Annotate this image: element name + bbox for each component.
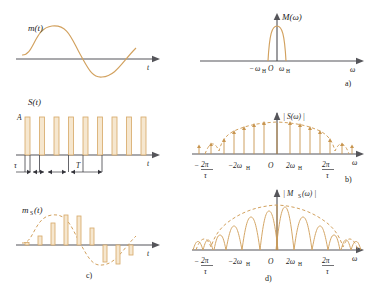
gap-dim-arrow-left (33, 170, 37, 174)
time-axis-arrow-b (152, 152, 160, 159)
replica-lobe (242, 217, 260, 250)
replica-lobe-center (276, 207, 294, 250)
time-axis-arrow-c (152, 242, 160, 249)
replica-lobe (328, 235, 340, 250)
pulse (141, 117, 146, 155)
pulse (83, 117, 88, 155)
sample-pulse-neg (103, 245, 107, 262)
panel-label-a: a) (345, 79, 352, 88)
pulse (25, 117, 30, 155)
tick-origin-d: O (268, 257, 274, 266)
label-period-T: T (76, 161, 81, 170)
t-dim-arrow-a (48, 170, 52, 174)
tick-minus-2pi-over-tau-d: − 2π τ (194, 256, 213, 276)
panel-c-time: m S (t) t c) (16, 205, 160, 280)
tick-minus-2pi-over-tau-b: − 2π τ (194, 160, 213, 180)
time-axis-arrow-a (152, 56, 160, 63)
svg-text:−2ω: −2ω (228, 161, 242, 170)
svg-text:H: H (298, 165, 302, 171)
figure-container: m(t) t M(ω) − ω H O ω H ω a) S(t) A (0, 0, 385, 293)
panel-d-freq: | M S (ω) | − 2π (192, 189, 364, 283)
sample-pulses (25, 215, 133, 264)
svg-text:τ: τ (204, 267, 207, 276)
axis-label-omega-a: ω (350, 65, 355, 74)
svg-text:| M: | M (283, 189, 294, 198)
label-tau: τ (14, 161, 17, 170)
sample-pulse (38, 236, 42, 245)
svg-text:ω: ω (279, 64, 284, 73)
panel-label-c: c) (86, 271, 93, 280)
axis-label-t-a: t (147, 63, 150, 72)
message-waveform (22, 26, 136, 77)
sample-pulse-neg (129, 245, 133, 255)
svg-text:−2ω: −2ω (228, 257, 242, 266)
svg-text:−: − (249, 64, 254, 73)
svg-text:H: H (246, 261, 250, 267)
omega-axis-arrow-a (356, 58, 364, 65)
amplitude-axis-arrow-a (274, 13, 281, 20)
panel-a-freq: M(ω) − ω H O ω H ω a) (200, 12, 364, 88)
spectral-arrow (197, 145, 201, 149)
spectral-replicas (193, 205, 361, 250)
svg-text:2π: 2π (322, 256, 330, 265)
tick-minus-2omega-H-d: −2ω H (228, 257, 250, 267)
ticks-panel-d: − 2π τ −2ω H O 2ω H 2π τ ω (194, 254, 357, 276)
svg-text:τ: τ (326, 267, 329, 276)
sample-pulse (64, 215, 68, 245)
amplitude-axis-arrow-b (274, 112, 281, 120)
panel-b-freq: | S(ω) | (192, 112, 364, 184)
spectral-lines-S (197, 121, 354, 154)
spectral-arrow (222, 138, 226, 142)
amplitude-axis-arrow-d (274, 189, 281, 197)
svg-text:2π: 2π (322, 160, 330, 169)
axis-label-t-c: t (147, 249, 150, 258)
sample-pulse (90, 228, 94, 245)
svg-text:−: − (194, 161, 199, 170)
spectral-arrow (350, 145, 354, 149)
label-amplitude-A: A (16, 113, 22, 122)
tick-origin-a: O (268, 64, 274, 73)
label-m-t: m(t) (28, 23, 43, 33)
sample-pulse (77, 216, 81, 245)
svg-text:H: H (262, 68, 266, 74)
label-S-t: S(t) (28, 97, 41, 107)
panel-label-d: d) (265, 274, 272, 283)
svg-text:(t): (t) (34, 205, 43, 215)
svg-text:m: m (22, 205, 29, 215)
sample-pulse (25, 243, 29, 246)
signal-sampling-figure: m(t) t M(ω) − ω H O ω H ω a) S(t) A (0, 0, 385, 293)
t-dim-arrow-left (71, 170, 75, 174)
axis-label-omega-b: ω (352, 158, 357, 167)
replica-lobe (226, 226, 242, 250)
label-M-omega: M(ω) (281, 12, 302, 22)
axis-label-t-b: t (147, 159, 150, 168)
svg-text:2π: 2π (201, 256, 209, 265)
tick-origin-b: O (268, 161, 274, 170)
spectral-arrow (328, 138, 332, 142)
svg-text:2π: 2π (201, 160, 209, 169)
svg-text:H: H (298, 261, 302, 267)
pulse-train (25, 117, 146, 155)
pulse (40, 117, 45, 155)
tick-2omega-H-b: 2ω H (286, 161, 302, 171)
svg-text:M(ω): M(ω) (281, 12, 302, 22)
pulse (98, 117, 103, 155)
sample-pulse (51, 223, 55, 245)
svg-text:H: H (246, 165, 250, 171)
label-ms-t: m S (t) (22, 205, 43, 216)
ticks-panel-b: − 2π τ −2ω H O 2ω H 2π τ ω (194, 158, 357, 180)
replica-lobe (193, 242, 203, 251)
svg-text:τ: τ (326, 171, 329, 180)
svg-text:S: S (30, 210, 33, 216)
replica-lobe (294, 217, 312, 250)
panel-b-time: S(t) A τ (14, 97, 160, 174)
t-dim-arrow-right (98, 170, 102, 174)
omega-axis-arrow-b (356, 151, 364, 158)
pulse (127, 117, 132, 155)
dimension-marks: τ T (14, 155, 102, 174)
pulse (54, 117, 59, 155)
sample-pulse-neg (116, 245, 120, 264)
pulse (69, 117, 74, 155)
svg-text:−: − (194, 257, 199, 266)
panel-label-b: b) (345, 175, 352, 184)
